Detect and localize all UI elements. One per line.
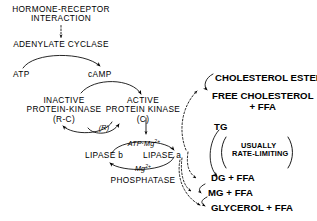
rate-limiting-line2: RATE-LIMITING — [232, 150, 288, 158]
rate-limiting-paren-left — [222, 137, 227, 168]
active-kinase-subunit: (C) — [106, 115, 181, 124]
atp-mg-text: ATP·Mg — [128, 139, 154, 148]
dashed-arrow-lipase-a-to-mg — [181, 158, 191, 191]
arrow-tg-to-dg — [210, 130, 219, 176]
dashed-arrow-lipase-a-to-dg — [187, 152, 196, 178]
inactive-protein-kinase-label: INACTIVE PROTEIN-KINASE (R-C) — [27, 96, 102, 124]
glycerol-ffa-label: GLYCEROL + FFA — [211, 203, 293, 214]
atp-label: ATP — [13, 70, 30, 79]
atp-mg-charge: 2+ — [154, 138, 160, 144]
arrow-atp-to-camp — [23, 55, 100, 68]
lipase-b-label: LIPASE b — [85, 151, 123, 160]
dashed-arrow-lipase-a-to-glycerol — [179, 160, 200, 205]
arrow-dg-to-mg — [199, 184, 205, 193]
rate-limiting-note: USUALLY RATE-LIMITING — [232, 142, 288, 159]
hormone-receptor-line2: INTERACTION — [12, 14, 110, 23]
mg-label: Mg2+ — [135, 164, 151, 173]
atp-mg-label: ATP·Mg2+ — [128, 139, 160, 148]
dashed-arrow-lipase-a-to-free-cholesterol — [182, 91, 197, 150]
camp-label: cAMP — [88, 70, 112, 79]
arrow-cholesterol-ester-to-free-cholesterol — [205, 74, 213, 90]
inactive-kinase-subunit: (R-C) — [27, 115, 102, 124]
lipase-a-label: LIPASE a — [143, 151, 181, 160]
mg-charge: 2+ — [145, 163, 151, 169]
free-cholesterol-ffa: + FFA — [212, 102, 314, 113]
mg-text: Mg — [135, 164, 145, 173]
r-subunit-label: (R) — [99, 124, 109, 132]
rate-limiting-paren-right — [288, 137, 293, 168]
dg-ffa-label: DG + FFA — [211, 173, 255, 184]
adenylate-cyclase-label: ADENYLATE CYCLASE — [13, 40, 109, 49]
mg-ffa-label: MG + FFA — [208, 188, 253, 199]
cholesterol-ester-label: CHOLESTEROL ESTER — [215, 73, 317, 84]
phosphatase-label: PHOSPHATASE — [111, 176, 176, 185]
arrow-mg-to-glycerol — [202, 197, 207, 206]
active-protein-kinase-label: ACTIVE PROTEIN KINASE (C) — [106, 96, 181, 124]
hormone-receptor-label: HORMONE-RECEPTOR INTERACTION — [12, 5, 110, 24]
tg-label: TG — [214, 122, 227, 133]
lipolysis-pathway-diagram: HORMONE-RECEPTOR INTERACTION ADENYLATE C… — [0, 0, 317, 221]
arrow-camp-to-active-kinase — [81, 81, 141, 94]
free-cholesterol-label: FREE CHOLESTEROL + FFA — [212, 91, 314, 112]
